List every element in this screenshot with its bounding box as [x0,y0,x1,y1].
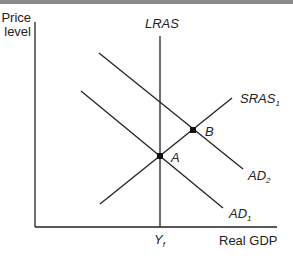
sras-label: SRAS1 [240,91,280,108]
ad1-label: AD1 [228,206,252,223]
point-b-marker [190,127,196,133]
ad1-curve [81,91,223,208]
lras-label: LRAS [145,16,179,31]
y-axis-label-line1: Price [1,10,31,25]
x-axis-label: Real GDP [219,233,278,248]
y-axis-label-line2: level [4,24,31,39]
point-a-marker [157,153,163,159]
ad-as-diagram: Price level Real GDP Yf LRAS SRAS1 AD2 A… [0,0,293,261]
yf-label: Yf [154,232,166,249]
ad2-label: AD2 [247,168,271,185]
point-b-label: B [205,124,214,139]
point-a-label: A [170,150,180,165]
sras-curve [100,98,232,204]
